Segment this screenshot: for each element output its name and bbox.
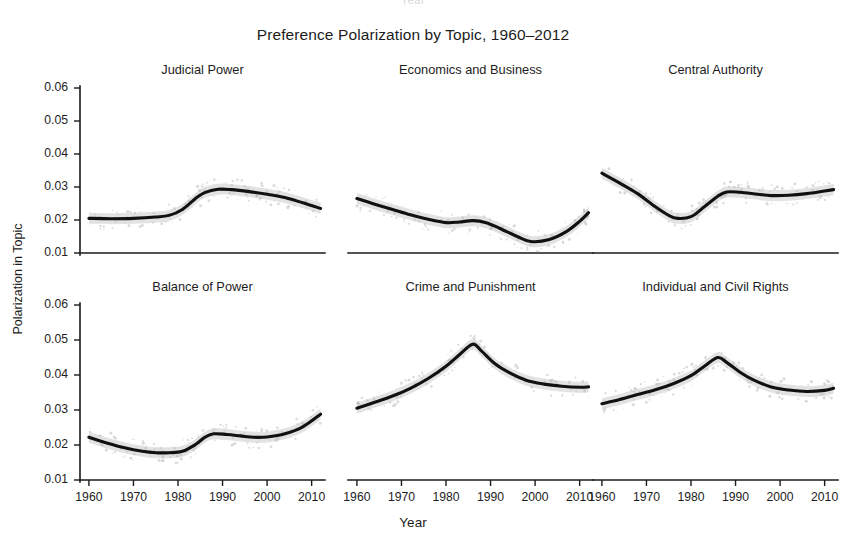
data-scatter-point: [656, 378, 659, 381]
data-scatter-point: [161, 459, 163, 461]
data-scatter-point: [114, 451, 116, 453]
data-scatter-point: [630, 389, 633, 392]
data-scatter-point: [312, 409, 315, 412]
data-scatter-point: [312, 210, 315, 213]
data-scatter-point: [451, 369, 453, 371]
data-scatter-point: [690, 224, 692, 226]
data-scatter-point: [724, 370, 726, 372]
data-scatter-point: [540, 248, 542, 250]
data-scatter-point: [663, 205, 664, 206]
data-scatter-point: [460, 347, 462, 349]
data-scatter-point: [670, 210, 673, 213]
data-scatter-point: [425, 226, 427, 228]
data-scatter-point: [663, 376, 664, 377]
data-scatter-point: [806, 400, 808, 402]
data-scatter-point: [315, 199, 317, 201]
data-scatter-point: [169, 456, 171, 458]
data-scatter-point: [101, 444, 103, 446]
data-scatter-point: [509, 224, 510, 225]
data-scatter-point: [294, 438, 296, 440]
data-scatter-point: [737, 184, 740, 187]
data-scatter-point: [826, 181, 827, 182]
data-scatter-point: [179, 218, 182, 221]
data-scatter-point: [315, 216, 317, 218]
data-scatter-point: [736, 365, 738, 367]
panel-title: Central Authority: [593, 62, 838, 77]
data-scatter-point: [761, 190, 763, 192]
data-scatter-point: [581, 380, 584, 383]
data-scatter-point: [400, 396, 402, 398]
data-scatter-point: [165, 221, 167, 223]
data-scatter-point: [702, 198, 705, 201]
data-scatter-point: [430, 385, 433, 388]
y-tick-label: 0.02: [26, 212, 68, 226]
data-scatter-point: [213, 178, 215, 180]
data-scatter-point: [201, 185, 203, 187]
data-scatter-point: [723, 182, 726, 185]
data-scatter-point: [760, 374, 763, 377]
data-scatter-point: [568, 382, 571, 385]
data-scatter-point: [408, 378, 411, 381]
data-scatter-point: [256, 442, 258, 444]
data-scatter-point: [830, 397, 833, 400]
data-scatter-point: [482, 225, 483, 226]
data-scatter-point: [191, 206, 193, 208]
data-scatter-point: [199, 204, 202, 207]
x-tick-label: 1980: [671, 490, 711, 504]
data-scatter-point: [766, 203, 768, 205]
data-scatter-point: [391, 216, 393, 218]
data-scatter-point: [103, 225, 105, 227]
data-scatter-point: [733, 186, 735, 188]
x-tick-label: 2000: [760, 490, 800, 504]
data-scatter-point: [643, 203, 646, 206]
data-scatter-point: [645, 206, 647, 208]
x-tick-label: 1960: [337, 490, 377, 504]
data-scatter-point: [470, 335, 472, 337]
data-scatter-point: [214, 439, 216, 441]
data-scatter-point: [355, 204, 358, 207]
data-scatter-point: [260, 429, 263, 432]
data-scatter-point: [116, 211, 118, 213]
data-scatter-point: [256, 195, 258, 197]
data-scatter-point: [797, 388, 798, 389]
confidence-band: [357, 339, 589, 414]
data-scatter-point: [584, 221, 587, 224]
panel-title: Individual and Civil Rights: [593, 279, 838, 294]
data-scatter-point: [633, 391, 635, 393]
data-scatter-point: [169, 218, 171, 220]
panel-title: Judicial Power: [80, 62, 325, 77]
data-scatter-point: [404, 221, 406, 223]
data-scatter-point: [650, 212, 653, 215]
data-scatter-point: [201, 196, 203, 198]
data-scatter-point: [221, 439, 222, 440]
data-scatter-point: [296, 423, 298, 425]
data-scatter-point: [633, 187, 634, 188]
data-scatter-point: [152, 222, 154, 224]
data-scatter-point: [780, 380, 783, 383]
data-scatter-point: [190, 456, 192, 458]
data-scatter-point: [755, 196, 757, 198]
data-scatter-point: [665, 392, 666, 393]
data-scatter-point: [202, 183, 204, 185]
data-scatter-point: [526, 235, 527, 236]
data-scatter-point: [196, 185, 199, 188]
data-scatter-point: [631, 180, 633, 182]
data-scatter-point: [197, 436, 199, 438]
data-scatter-point: [265, 429, 268, 432]
data-scatter-point: [483, 215, 486, 218]
data-scatter-point: [786, 202, 788, 204]
data-scatter-point: [367, 407, 369, 409]
data-scatter-point: [468, 231, 469, 232]
data-scatter-point: [696, 218, 699, 221]
data-scatter-point: [817, 199, 819, 201]
data-scatter-point: [489, 219, 491, 221]
data-scatter-point: [308, 213, 309, 214]
data-scatter-point: [223, 426, 224, 427]
data-scatter-point: [417, 211, 420, 214]
data-scatter-point: [548, 244, 551, 247]
data-scatter-point: [421, 372, 423, 374]
y-tick-label: 0.06: [26, 80, 68, 94]
data-scatter-point: [160, 447, 162, 449]
data-scatter-point: [443, 226, 444, 227]
